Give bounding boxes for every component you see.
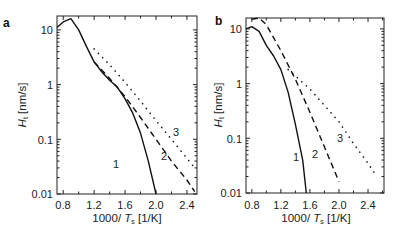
curves-b [246,18,375,193]
curve-label-1-b: 1 [293,151,299,163]
ylabel-a: Ht [nm/s] [16,83,29,128]
xlabel-a: 1000/ Ts [1/K] [92,212,161,225]
curve-label-3-a: 3 [173,126,179,138]
panel-label-a: a [3,16,10,30]
figure: a 10 1 0.1 0.01 0.8 1.2 1.6 2.0 2.4 1000… [0,0,399,236]
panel-a: a 10 1 0.1 0.01 0.8 1.2 1.6 2.0 2.4 1000… [3,16,197,225]
ytick-0.1-a: 0.1 [38,134,53,146]
curve-1 [57,19,156,194]
panel-label-b: b [215,14,222,28]
curves-a [57,19,195,194]
curve-3 [288,70,375,175]
panel-b: b 10 1 0.1 0.01 0.8 1.2 1.6 2.0 2.4 1000… [212,14,384,225]
curve-label-2-a: 2 [161,150,167,162]
ytick-10-a: 10 [41,24,53,36]
xtick-1.6-b: 1.6 [302,199,317,211]
curve-label-1-a: 1 [113,158,119,170]
ytick-0.01-b: 0.01 [221,187,242,199]
curve-2 [94,62,195,192]
ytick-1-a: 1 [47,79,53,91]
xtick-2.4-a: 2.4 [179,199,194,211]
curve-3 [94,49,195,168]
ytick-1-b: 1 [236,78,242,90]
ytick-0.01-a: 0.01 [32,188,53,200]
xtick-1.2-b: 1.2 [273,199,288,211]
xtick-0.8-b: 0.8 [244,199,259,211]
xtick-2.4-b: 2.4 [360,199,375,211]
axis-ticks-b [246,18,384,193]
ytick-10-b: 10 [230,23,242,35]
curve-label-2-b: 2 [312,148,318,160]
plot-frame-b [246,18,384,193]
curve-1 [246,27,306,193]
ylabel-b: Ht [nm/s] [212,83,225,128]
xtick-1.2-a: 1.2 [86,199,101,211]
curve-label-3-b: 3 [337,132,343,144]
xtick-2.0-b: 2.0 [331,199,346,211]
xlabel-b: 1000/ Ts [1/K] [281,212,350,225]
xtick-0.8-a: 0.8 [55,199,70,211]
xtick-1.6-a: 1.6 [117,199,132,211]
xtick-2.0-a: 2.0 [148,199,163,211]
ytick-0.1-b: 0.1 [227,133,242,145]
